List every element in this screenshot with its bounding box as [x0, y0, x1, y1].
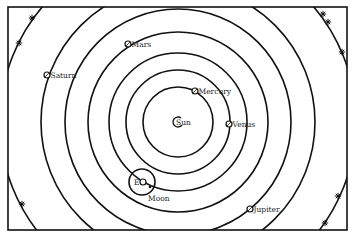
planet-label: Saturn [51, 71, 77, 80]
sun: Sun [173, 117, 191, 127]
earth-label: E [134, 178, 139, 187]
planet-label: Mars [132, 40, 152, 49]
planet-label: Mercury [199, 87, 232, 96]
earth-icon [140, 179, 146, 185]
planet-mars: Mars [125, 40, 151, 49]
planet-venus: Venus [226, 120, 255, 129]
star-icon [16, 40, 22, 46]
solar-system-diagram: SunMercuryVenusMarsSaturnJupiterEMoon [0, 0, 355, 238]
star-icon [29, 15, 35, 21]
star-icon [19, 201, 25, 207]
planet-label: Jupiter [253, 205, 280, 214]
planet-mercury: Mercury [192, 87, 232, 96]
star-icon [322, 220, 328, 226]
planet-jupiter: Jupiter [247, 205, 280, 214]
star-icon [320, 11, 326, 17]
moon-label: Moon [148, 194, 170, 203]
moon-icon [149, 186, 152, 189]
planet-label: Venus [232, 120, 256, 129]
sun-label: Sun [176, 118, 191, 127]
star-icon [325, 19, 331, 25]
star-icon [335, 193, 341, 199]
star-icon [339, 49, 345, 55]
